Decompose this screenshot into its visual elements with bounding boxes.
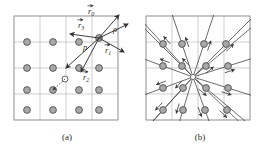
lattice-atom xyxy=(24,107,31,114)
lattice-atom xyxy=(24,39,31,46)
lattice-atom xyxy=(160,63,167,70)
vector-label-r1: r1 xyxy=(105,45,111,56)
ray-line xyxy=(72,79,191,154)
ray-line xyxy=(72,79,191,154)
lattice-atom xyxy=(96,65,103,72)
vector-r1 xyxy=(99,38,124,52)
lattice-atom xyxy=(76,39,83,46)
lattice-atom xyxy=(96,87,103,94)
lattice-atom xyxy=(225,63,232,70)
lattice-atom xyxy=(203,63,210,70)
lattice-atom xyxy=(180,85,187,92)
lattice-atom xyxy=(96,107,103,114)
lattice-atom xyxy=(50,65,57,72)
figure-root: r0r1r2r3ρp (a) (b) xyxy=(0,0,259,154)
lattice-atom xyxy=(202,107,209,114)
lattice-atom xyxy=(160,41,167,48)
vector-label-r2: r2 xyxy=(83,72,89,83)
vector-label-rho: ρ xyxy=(112,24,117,34)
lattice-atom xyxy=(224,107,231,114)
atom-displacement-arrow xyxy=(198,107,201,116)
vector-label-r3: r3 xyxy=(78,20,84,31)
vector-r3 xyxy=(70,34,99,38)
lattice-atom xyxy=(76,87,83,94)
vector-label-r0: r0 xyxy=(88,6,94,17)
lattice-atom xyxy=(24,87,31,94)
ray-line xyxy=(194,0,250,74)
lattice-atom xyxy=(225,85,232,92)
lattice-atom xyxy=(50,107,57,114)
panel-a: r0r1r2r3ρp xyxy=(14,6,128,120)
vector-label-subscript: 2 xyxy=(86,77,89,83)
vector-label-p: p xyxy=(82,42,87,52)
lattice-atom xyxy=(160,85,167,92)
panel-a-caption: (a) xyxy=(47,132,87,142)
lattice-atom xyxy=(203,85,210,92)
lattice-atom xyxy=(179,63,186,70)
figure-canvas: r0r1r2r3ρp xyxy=(0,0,259,154)
lattice-atom xyxy=(160,107,167,114)
lattice-atom xyxy=(24,65,31,72)
atom-displacement-arrow xyxy=(225,70,235,73)
lattice-atom xyxy=(50,39,57,46)
lattice-atom xyxy=(201,41,208,48)
atom-displacement-arrow xyxy=(176,104,179,114)
panel-b xyxy=(24,0,259,154)
atom-displacement-arrow xyxy=(160,59,169,62)
lattice-atom xyxy=(180,107,187,114)
panel-b-caption: (b) xyxy=(180,132,220,142)
lattice-atom xyxy=(76,107,83,114)
vector-label-subscript: 1 xyxy=(108,50,111,56)
lattice-atom xyxy=(179,41,186,48)
lattice-atom xyxy=(223,41,230,48)
vector-label-subscript: 0 xyxy=(91,11,94,17)
vector-label-subscript: 3 xyxy=(80,25,84,31)
panel-b-center-marker xyxy=(190,74,195,79)
atom-displacement-arrow xyxy=(156,81,165,84)
atom-displacement-arrow xyxy=(208,41,211,50)
